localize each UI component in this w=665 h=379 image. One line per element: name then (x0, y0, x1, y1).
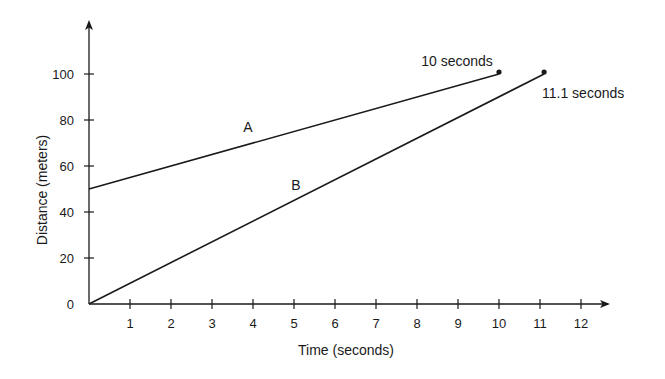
x-tick-label: 2 (167, 316, 174, 331)
x-tick-label: 9 (454, 316, 461, 331)
axes (89, 22, 608, 304)
x-tick-label: 6 (331, 316, 338, 331)
endpoint-marker-b (542, 69, 547, 74)
x-tick-label: 10 (492, 316, 506, 331)
x-tick-label: 5 (290, 316, 297, 331)
line-a-label: A (243, 119, 253, 135)
x-tick-label: 8 (413, 316, 420, 331)
y-tick-label: 60 (60, 159, 74, 174)
x-tick-label: 11 (533, 316, 547, 331)
endpoint-a-annotation: 10 seconds (421, 53, 493, 69)
line-b (89, 74, 544, 304)
endpoint-b-annotation: 11.1 seconds (542, 85, 624, 101)
x-tick-label: 4 (249, 316, 256, 331)
ticks: 123456789101112020406080100 (52, 67, 588, 331)
endpoint-marker-a (496, 69, 501, 74)
y-tick-label: 0 (67, 297, 74, 312)
distance-time-chart: 123456789101112020406080100 AB10 seconds… (0, 0, 665, 379)
x-tick-label: 3 (208, 316, 215, 331)
x-tick-label: 7 (372, 316, 379, 331)
x-tick-label: 1 (126, 316, 133, 331)
text-labels: AB10 seconds11.1 secondsTime (seconds)Di… (34, 53, 624, 358)
series (89, 69, 547, 304)
x-axis-title: Time (seconds) (298, 342, 394, 358)
line-a (89, 74, 499, 189)
x-tick-label: 12 (574, 316, 588, 331)
y-tick-label: 80 (60, 113, 74, 128)
y-tick-label: 100 (52, 67, 74, 82)
line-b-label: B (291, 177, 300, 193)
y-tick-label: 40 (60, 205, 74, 220)
y-axis-title: Distance (meters) (34, 135, 50, 245)
y-tick-label: 20 (60, 251, 74, 266)
